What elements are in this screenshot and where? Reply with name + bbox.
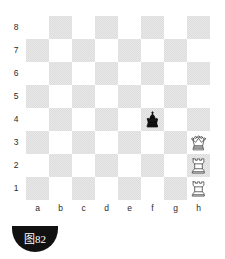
board-square-e2[interactable]	[118, 154, 141, 177]
file-label-d: d	[95, 201, 118, 215]
board-square-g7[interactable]	[164, 39, 187, 62]
file-label-row: abcdefgh	[26, 201, 210, 215]
board-square-a5[interactable]	[26, 85, 49, 108]
figure-caption-label: 图82	[24, 234, 46, 245]
board-square-g3[interactable]	[164, 131, 187, 154]
file-label-b: b	[49, 201, 72, 215]
board-square-h1[interactable]	[187, 177, 210, 200]
rank-label-column: 87654321	[9, 16, 23, 200]
board-square-d3[interactable]	[95, 131, 118, 154]
board-square-a3[interactable]	[26, 131, 49, 154]
rank-label-7: 7	[9, 39, 23, 62]
board-square-h8[interactable]	[187, 16, 210, 39]
board-square-g2[interactable]	[164, 154, 187, 177]
board-square-h5[interactable]	[187, 85, 210, 108]
board-square-h2[interactable]	[187, 154, 210, 177]
board-square-f4[interactable]	[141, 108, 164, 131]
board-square-b2[interactable]	[49, 154, 72, 177]
board-square-g5[interactable]	[164, 85, 187, 108]
board-square-a2[interactable]	[26, 154, 49, 177]
board-square-f5[interactable]	[141, 85, 164, 108]
board-square-b3[interactable]	[49, 131, 72, 154]
board-square-h4[interactable]	[187, 108, 210, 131]
board-square-b4[interactable]	[49, 108, 72, 131]
board-square-c3[interactable]	[72, 131, 95, 154]
board-square-f7[interactable]	[141, 39, 164, 62]
board-square-h3[interactable]	[187, 131, 210, 154]
rank-label-3: 3	[9, 131, 23, 154]
rank-label-1: 1	[9, 177, 23, 200]
figure-caption-inner: 图82	[12, 229, 58, 252]
board-square-d5[interactable]	[95, 85, 118, 108]
board-square-d2[interactable]	[95, 154, 118, 177]
file-label-e: e	[118, 201, 141, 215]
board-square-e3[interactable]	[118, 131, 141, 154]
board-square-d1[interactable]	[95, 177, 118, 200]
board-square-f1[interactable]	[141, 177, 164, 200]
figure-caption-badge: 图82	[12, 229, 58, 252]
board-square-g4[interactable]	[164, 108, 187, 131]
rank-label-6: 6	[9, 62, 23, 85]
board-square-c6[interactable]	[72, 62, 95, 85]
rank-label-4: 4	[9, 108, 23, 131]
chess-diagram: 87654321	[0, 0, 225, 259]
board-square-e6[interactable]	[118, 62, 141, 85]
board-square-f2[interactable]	[141, 154, 164, 177]
board-square-h7[interactable]	[187, 39, 210, 62]
board-square-c5[interactable]	[72, 85, 95, 108]
board-square-b5[interactable]	[49, 85, 72, 108]
board-square-b7[interactable]	[49, 39, 72, 62]
board-square-e4[interactable]	[118, 108, 141, 131]
board-square-d4[interactable]	[95, 108, 118, 131]
board-square-c8[interactable]	[72, 16, 95, 39]
file-label-h: h	[187, 201, 210, 215]
board-square-d6[interactable]	[95, 62, 118, 85]
file-label-g: g	[164, 201, 187, 215]
board-square-a4[interactable]	[26, 108, 49, 131]
board-square-c1[interactable]	[72, 177, 95, 200]
board-square-e1[interactable]	[118, 177, 141, 200]
board-square-e5[interactable]	[118, 85, 141, 108]
board-square-b8[interactable]	[49, 16, 72, 39]
board-square-f3[interactable]	[141, 131, 164, 154]
board-square-f6[interactable]	[141, 62, 164, 85]
board-square-g8[interactable]	[164, 16, 187, 39]
board-square-c2[interactable]	[72, 154, 95, 177]
board-square-d8[interactable]	[95, 16, 118, 39]
board-square-a7[interactable]	[26, 39, 49, 62]
board-square-c7[interactable]	[72, 39, 95, 62]
rank-label-5: 5	[9, 85, 23, 108]
file-label-a: a	[26, 201, 49, 215]
rank-label-8: 8	[9, 16, 23, 39]
board-square-h6[interactable]	[187, 62, 210, 85]
board-square-e7[interactable]	[118, 39, 141, 62]
board-square-d7[interactable]	[95, 39, 118, 62]
board-square-b6[interactable]	[49, 62, 72, 85]
file-label-f: f	[141, 201, 164, 215]
board-square-e8[interactable]	[118, 16, 141, 39]
board-square-a1[interactable]	[26, 177, 49, 200]
board-square-a6[interactable]	[26, 62, 49, 85]
board-square-a8[interactable]	[26, 16, 49, 39]
board-square-c4[interactable]	[72, 108, 95, 131]
board-square-g6[interactable]	[164, 62, 187, 85]
chess-board[interactable]	[26, 16, 210, 200]
board-square-b1[interactable]	[49, 177, 72, 200]
rank-label-2: 2	[9, 154, 23, 177]
board-square-g1[interactable]	[164, 177, 187, 200]
board-square-f8[interactable]	[141, 16, 164, 39]
file-label-c: c	[72, 201, 95, 215]
